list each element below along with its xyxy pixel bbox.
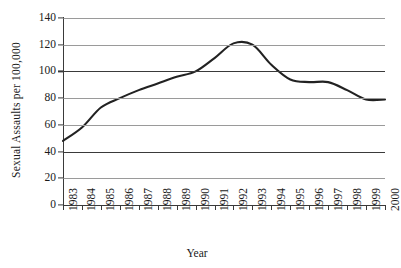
y-tick-mark (58, 178, 64, 179)
y-tick-mark (58, 124, 64, 125)
x-tick-label: 1990 (200, 188, 212, 211)
x-tick-mark (328, 205, 329, 210)
x-tick-mark (215, 205, 216, 210)
x-tick-mark (233, 205, 234, 210)
x-tick-mark (177, 205, 178, 210)
y-tick-mark (58, 17, 64, 18)
x-tick-label: 1992 (238, 188, 250, 211)
y-tick-mark (58, 71, 64, 72)
x-tick-label: 1996 (314, 188, 326, 211)
x-tick-mark (271, 205, 272, 210)
x-tick-label: 1994 (276, 188, 288, 211)
x-tick-mark (347, 205, 348, 210)
x-tick-mark (385, 205, 386, 210)
x-tick-label: 1984 (86, 188, 98, 211)
x-tick-label: 1998 (352, 188, 364, 211)
x-tick-label: 1989 (181, 188, 193, 211)
x-tick-label: 1983 (68, 188, 80, 211)
y-tick-mark (58, 98, 64, 99)
x-tick-label: 1997 (333, 188, 345, 211)
x-tick-mark (309, 205, 310, 210)
x-tick-label: 1985 (105, 188, 117, 211)
x-tick-label: 2000 (390, 188, 401, 211)
x-tick-label: 1999 (371, 188, 383, 211)
x-tick-label: 1986 (124, 188, 136, 211)
y-tick-mark (58, 151, 64, 152)
x-tick-mark (139, 205, 140, 210)
y-tick-mark (58, 44, 64, 45)
x-tick-mark (120, 205, 121, 210)
x-tick-mark (63, 205, 64, 210)
x-tick-mark (252, 205, 253, 210)
x-tick-mark (82, 205, 83, 210)
x-tick-mark (101, 205, 102, 210)
x-tick-label: 1993 (257, 188, 269, 211)
x-tick-mark (290, 205, 291, 210)
x-tick-mark (196, 205, 197, 210)
x-tick-label: 1995 (295, 188, 307, 211)
x-axis-title: Year (0, 247, 394, 259)
x-tick-label: 1988 (162, 188, 174, 211)
x-tick-label: 1987 (143, 188, 155, 211)
x-tick-label: 1991 (219, 188, 231, 211)
x-tick-mark (366, 205, 367, 210)
x-tick-mark (158, 205, 159, 210)
